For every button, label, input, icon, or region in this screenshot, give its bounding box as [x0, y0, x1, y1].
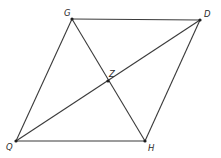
- side-gd: [72, 19, 200, 20]
- point-h: [143, 139, 146, 142]
- point-z: [106, 79, 109, 82]
- point-d: [198, 18, 201, 21]
- label-h: H: [148, 143, 155, 153]
- label-g: G: [64, 8, 71, 18]
- label-q: Q: [6, 142, 13, 152]
- label-z: Z: [108, 69, 115, 79]
- parallelogram-diagram: G D H Q Z: [0, 0, 221, 158]
- label-d: D: [204, 9, 211, 19]
- point-q: [14, 139, 17, 142]
- point-g: [70, 17, 73, 20]
